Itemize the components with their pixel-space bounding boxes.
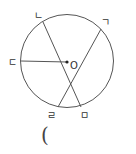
label-g: ㄱ xyxy=(101,17,110,28)
answer-paren: ( xyxy=(41,125,49,145)
circle-diagram: O ㄴ ㄱ ㄷ ㄹ ㅁ xyxy=(0,0,136,154)
label-r: ㄹ xyxy=(47,110,56,121)
label-center-o: O xyxy=(70,60,78,71)
label-d: ㄷ xyxy=(8,57,17,68)
center-point xyxy=(65,60,68,63)
chord-g-r xyxy=(58,29,101,107)
label-m: ㅁ xyxy=(80,110,89,121)
label-n: ㄴ xyxy=(34,10,43,21)
